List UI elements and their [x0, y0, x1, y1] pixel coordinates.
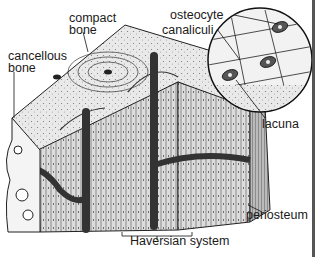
- haversian-canal-right: [150, 52, 158, 230]
- label-lacuna: lacuna: [262, 118, 299, 131]
- haversian-canal-left: [82, 108, 90, 233]
- label-compact-bone-line2: bone: [69, 24, 97, 37]
- label-haversian-system: Haversian system: [130, 235, 229, 248]
- label-osteocyte: osteocyte: [170, 9, 224, 22]
- frame-border-right: [312, 0, 315, 257]
- haversian-canal-top-opening: [104, 70, 112, 75]
- vessel-opening: [53, 75, 61, 80]
- label-periosteum: periosteum: [246, 209, 308, 222]
- bone-structure-diagram: compact bone cancellous bone osteocyte c…: [0, 0, 320, 257]
- label-cancellous-bone-line2: bone: [8, 62, 36, 75]
- label-canaliculi: canaliculi: [162, 24, 213, 37]
